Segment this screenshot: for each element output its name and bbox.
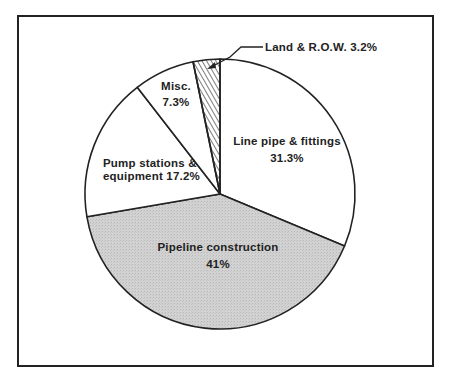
label-pump-stations-value: equipment 17.2%	[103, 170, 200, 182]
label-pipeline-construction-value: 41%	[206, 258, 230, 270]
label-land-row: Land & R.O.W. 3.2%	[265, 41, 377, 53]
pie-slices	[85, 59, 355, 329]
label-misc: Misc.	[161, 80, 191, 92]
pie-chart: Line pipe & fittings 31.3% Pipeline cons…	[0, 0, 453, 386]
label-line-pipe-value: 31.3%	[270, 152, 304, 164]
label-line-pipe: Line pipe & fittings	[233, 135, 341, 147]
label-pump-stations: Pump stations &	[103, 157, 197, 169]
label-pipeline-construction: Pipeline construction	[157, 241, 278, 253]
label-misc-value: 7.3%	[162, 96, 189, 108]
